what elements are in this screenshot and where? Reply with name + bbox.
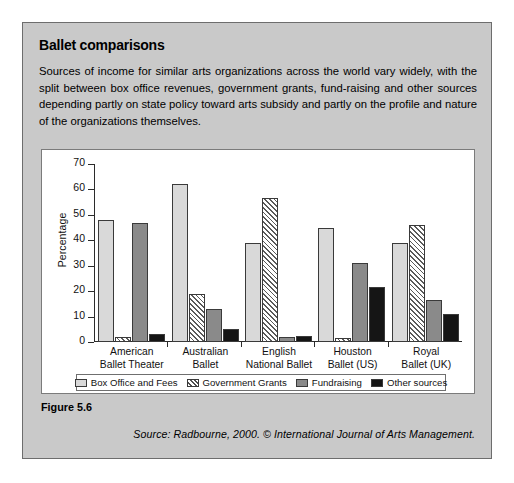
x-axis-label-line: Australian xyxy=(169,346,243,359)
legend-label: Box Office and Fees xyxy=(91,377,178,388)
legend-label: Fundraising xyxy=(312,377,362,388)
legend-item[interactable]: Government Grants xyxy=(187,377,287,388)
bar[interactable] xyxy=(443,314,459,342)
bar[interactable] xyxy=(245,243,261,342)
y-tick-label: 40 xyxy=(73,232,85,244)
legend-swatch-icon xyxy=(75,379,87,387)
bar[interactable] xyxy=(172,184,188,342)
bar[interactable] xyxy=(189,294,205,342)
y-tick-label: 70 xyxy=(73,156,85,168)
bar[interactable] xyxy=(392,243,408,342)
legend-swatch-icon xyxy=(296,379,308,387)
legend-label: Government Grants xyxy=(203,377,287,388)
y-tick-label: 0 xyxy=(79,334,85,346)
y-tick-label: 50 xyxy=(73,207,85,219)
bar-groups xyxy=(95,164,462,342)
bar[interactable] xyxy=(98,220,114,342)
y-tick-mark xyxy=(88,189,94,190)
bar-group-bars xyxy=(245,198,312,342)
chart-plot-wrapper: Percentage 010203040506070 AmericanBalle… xyxy=(42,150,474,393)
ballet-comparisons-panel: Ballet comparisons Sources of income for… xyxy=(22,22,492,459)
panel-title: Ballet comparisons xyxy=(39,37,165,53)
bar-group xyxy=(95,164,168,342)
figure-label: Figure 5.6 xyxy=(41,401,92,413)
source-attribution: Source: Radbourne, 2000. © International… xyxy=(133,428,475,440)
bar[interactable] xyxy=(279,337,295,342)
bar[interactable] xyxy=(409,225,425,342)
x-axis-category-label: HoustonBallet (US) xyxy=(316,346,390,371)
bar[interactable] xyxy=(262,198,278,342)
bar[interactable] xyxy=(369,287,385,342)
bar[interactable] xyxy=(318,228,334,342)
bar[interactable] xyxy=(132,223,148,343)
x-axis-label-line: English xyxy=(242,346,316,359)
bar[interactable] xyxy=(223,329,239,342)
x-axis-labels: AmericanBallet TheaterAustralianBalletEn… xyxy=(95,346,463,371)
chart-legend: Box Office and FeesGovernment GrantsFund… xyxy=(76,374,446,391)
legend-label: Other sources xyxy=(387,377,447,388)
x-axis-label-line: American xyxy=(95,346,169,359)
bar[interactable] xyxy=(426,300,442,342)
y-tick-label: 30 xyxy=(73,258,85,270)
y-tick-mark xyxy=(88,342,94,343)
x-axis-label-line: Ballet xyxy=(169,359,243,372)
bar-group xyxy=(242,164,315,342)
bar[interactable] xyxy=(335,338,351,342)
x-axis-category-label: RoyalBallet (UK) xyxy=(389,346,463,371)
y-tick-mark xyxy=(88,266,94,267)
bar[interactable] xyxy=(206,309,222,342)
bar[interactable] xyxy=(296,336,312,342)
y-axis-label: Percentage xyxy=(56,185,68,295)
bar-group xyxy=(389,164,462,342)
x-axis-label-line: Ballet (US) xyxy=(316,359,390,372)
legend-item[interactable]: Fundraising xyxy=(296,377,362,388)
screenshot-root: Ballet comparisons Sources of income for… xyxy=(0,0,514,483)
x-axis-label-line: National Ballet xyxy=(242,359,316,372)
x-axis-label-line: Ballet Theater xyxy=(95,359,169,372)
chart-card: Percentage 010203040506070 AmericanBalle… xyxy=(41,149,475,394)
bar[interactable] xyxy=(115,337,131,342)
y-tick-mark xyxy=(88,317,94,318)
y-tick-mark xyxy=(88,164,94,165)
bar-group xyxy=(315,164,388,342)
legend-item[interactable]: Box Office and Fees xyxy=(75,377,178,388)
y-tick-mark xyxy=(88,240,94,241)
x-axis-category-label: EnglishNational Ballet xyxy=(242,346,316,371)
bar-group xyxy=(168,164,241,342)
bar-group-bars xyxy=(318,228,385,342)
x-axis-label-line: Houston xyxy=(316,346,390,359)
plot-area: 010203040506070 xyxy=(94,164,462,342)
legend-item[interactable]: Other sources xyxy=(371,377,447,388)
x-axis-category-label: AmericanBallet Theater xyxy=(95,346,169,371)
bar-group-bars xyxy=(172,184,239,342)
x-axis-label-line: Royal xyxy=(389,346,463,359)
bar-group-bars xyxy=(392,225,459,342)
legend-swatch-icon xyxy=(187,379,199,387)
bar-group-bars xyxy=(98,220,165,342)
x-axis-category-label: AustralianBallet xyxy=(169,346,243,371)
y-tick-label: 10 xyxy=(73,309,85,321)
legend-swatch-icon xyxy=(371,379,383,387)
y-tick-label: 20 xyxy=(73,283,85,295)
y-tick-mark xyxy=(88,291,94,292)
y-tick-label: 60 xyxy=(73,181,85,193)
bar[interactable] xyxy=(352,263,368,342)
y-tick-mark xyxy=(88,215,94,216)
bar[interactable] xyxy=(149,334,165,342)
x-axis-label-line: Ballet (UK) xyxy=(389,359,463,372)
panel-intro-text: Sources of income for similar arts organ… xyxy=(39,63,477,129)
